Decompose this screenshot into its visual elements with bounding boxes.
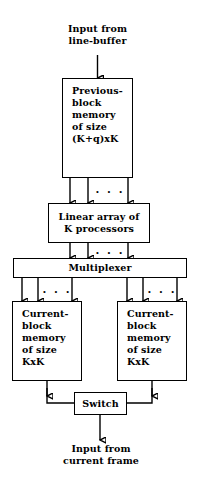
current-block-memory-left-label: Current- block memory of size KxK	[22, 308, 69, 367]
wire-switch-to-left-memory	[47, 381, 74, 403]
wire-switch-to-right-memory	[127, 381, 152, 403]
ellipsis-right-memory-to-mux: . . .	[147, 284, 177, 295]
ellipsis-left-memory-to-mux: . . .	[42, 284, 72, 295]
previous-block-memory-node: Previous- block memory of size (K+q)xK	[62, 78, 133, 178]
input-from-line-buffer-label: Input from line-buffer	[40, 23, 155, 46]
ellipsis-mux-to-linear: . . .	[93, 245, 127, 256]
current-block-memory-left-node: Current- block memory of size KxK	[12, 301, 82, 381]
block-diagram: Input from line-buffer Previous- block m…	[0, 0, 199, 485]
multiplexer-node: Multiplexer	[13, 258, 187, 278]
ellipsis-prev-to-linear: . . .	[93, 184, 127, 195]
multiplexer-label: Multiplexer	[68, 262, 131, 274]
previous-block-memory-label: Previous- block memory of size (K+q)xK	[72, 85, 123, 144]
current-block-memory-right-label: Current- block memory of size KxK	[127, 308, 174, 367]
current-block-memory-right-node: Current- block memory of size KxK	[117, 301, 187, 381]
linear-array-node: Linear array of K processors	[48, 203, 150, 243]
linear-array-label: Linear array of K processors	[59, 211, 140, 235]
switch-label: Switch	[82, 398, 118, 410]
input-from-current-frame-label: Input from current frame	[42, 443, 160, 466]
switch-node: Switch	[74, 392, 127, 415]
